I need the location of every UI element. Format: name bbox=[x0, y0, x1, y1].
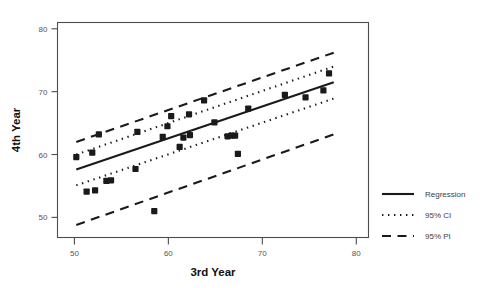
legend-label: 95% PI bbox=[425, 232, 451, 241]
data-point-marker bbox=[89, 150, 95, 156]
x-tick-label: 50 bbox=[70, 249, 79, 258]
data-point-marker bbox=[282, 92, 288, 98]
regression-scatter-figure: 50607080 50607080 3rd Year 4th Year Regr… bbox=[0, 0, 492, 288]
data-point-marker bbox=[164, 123, 170, 129]
x-axis-ticks: 50607080 bbox=[70, 238, 361, 258]
interval-bands bbox=[76, 53, 333, 225]
data-point-marker bbox=[211, 119, 217, 125]
x-axis-title: 3rd Year bbox=[190, 266, 236, 278]
95-pi-upper-line bbox=[76, 53, 333, 142]
data-point-marker bbox=[187, 132, 193, 138]
data-point-marker bbox=[73, 154, 79, 160]
x-tick-label: 70 bbox=[258, 249, 267, 258]
plot-frame bbox=[58, 23, 369, 238]
legend-label: Regression bbox=[425, 190, 465, 199]
y-tick-label: 70 bbox=[39, 88, 48, 97]
data-point-marker bbox=[134, 129, 140, 135]
data-point-marker bbox=[177, 144, 183, 150]
data-point-marker bbox=[180, 134, 186, 140]
95-pi-lower-line bbox=[76, 134, 333, 225]
data-point-marker bbox=[96, 131, 102, 137]
legend-label: 95% CI bbox=[425, 211, 451, 220]
chart-legend: Regression95% CI95% PI bbox=[382, 190, 465, 241]
data-point-marker bbox=[84, 189, 90, 195]
data-point-marker bbox=[92, 187, 98, 193]
y-axis-ticks: 50607080 bbox=[39, 25, 58, 223]
x-tick-label: 60 bbox=[164, 249, 173, 258]
data-point-marker bbox=[132, 166, 138, 172]
y-tick-label: 50 bbox=[39, 213, 48, 222]
x-tick-label: 80 bbox=[352, 249, 361, 258]
data-point-marker bbox=[326, 70, 332, 76]
y-tick-label: 80 bbox=[39, 25, 48, 34]
data-point-marker bbox=[201, 97, 207, 103]
y-axis-title: 4th Year bbox=[10, 107, 22, 152]
regression-line bbox=[76, 82, 333, 169]
data-point-marker bbox=[186, 111, 192, 117]
data-point-marker bbox=[235, 151, 241, 157]
data-point-marker bbox=[160, 134, 166, 140]
95-ci-upper-line bbox=[76, 67, 333, 155]
data-points bbox=[73, 70, 332, 214]
95-ci-lower-line bbox=[76, 99, 333, 186]
data-point-marker bbox=[302, 94, 308, 100]
data-point-marker bbox=[245, 106, 251, 112]
data-point-marker bbox=[320, 87, 326, 93]
regression-line-group bbox=[76, 82, 333, 169]
y-tick-label: 60 bbox=[39, 151, 48, 160]
data-point-marker bbox=[151, 208, 157, 214]
chart-canvas: 50607080 50607080 3rd Year 4th Year Regr… bbox=[0, 0, 492, 288]
data-point-marker bbox=[168, 113, 174, 119]
data-point-marker bbox=[108, 177, 114, 183]
data-point-marker bbox=[232, 133, 238, 139]
